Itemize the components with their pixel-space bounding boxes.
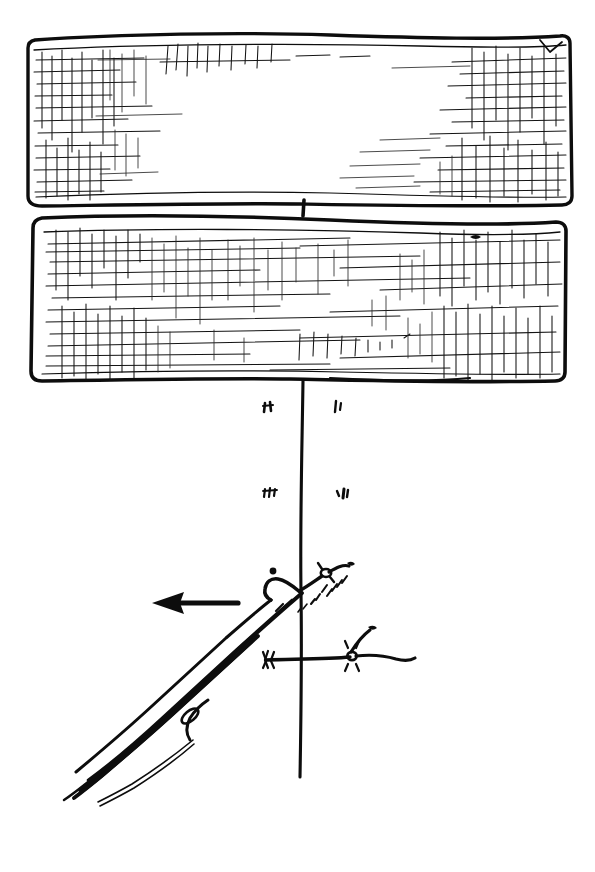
paper-background bbox=[0, 0, 595, 872]
ink-dot bbox=[270, 568, 277, 575]
figure-canvas: Hand-drawn sketch: fencing pliers pullin… bbox=[0, 0, 595, 872]
board-gap-connector bbox=[303, 200, 304, 216]
hand-drawn-illustration bbox=[0, 0, 595, 872]
tick-mark-lower-left bbox=[263, 488, 277, 497]
